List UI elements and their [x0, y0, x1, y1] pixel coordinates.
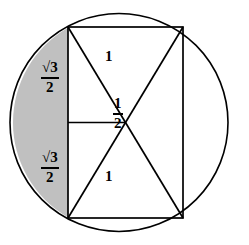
- label-sqrt3-over-2-upper-numerator: √3: [41, 60, 59, 77]
- geometry-canvas: [0, 0, 249, 245]
- label-one-half-numerator: 1: [113, 96, 123, 113]
- label-one-upper: 1: [105, 49, 113, 64]
- shaded-circular-segment: [13, 28, 68, 217]
- label-sqrt3-over-2-upper-denominator: 2: [41, 79, 59, 96]
- label-sqrt3-over-2-lower: √3 2: [41, 150, 59, 186]
- label-one-half-denominator: 2: [113, 115, 123, 132]
- label-sqrt3-over-2-lower-numerator: √3: [41, 150, 59, 167]
- label-sqrt3-over-2-lower-denominator: 2: [41, 169, 59, 186]
- label-one-lower: 1: [105, 169, 113, 184]
- label-sqrt3-over-2-upper: √3 2: [41, 60, 59, 96]
- label-one-half: 1 2: [113, 96, 123, 132]
- geometry-figure: √3 2 √3 2 1 2 1 1: [0, 0, 249, 245]
